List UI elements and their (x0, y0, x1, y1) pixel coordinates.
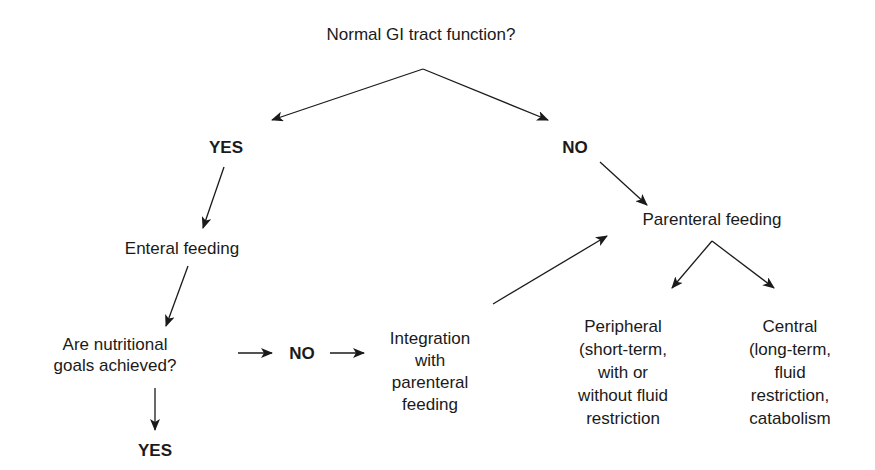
peripheral-line-4: without fluid (548, 384, 698, 407)
peripheral-line-5: restriction (548, 407, 698, 430)
yes-top-label: YES (209, 138, 243, 157)
integration-line-3: parenteral (370, 372, 490, 394)
no-top-label: NO (562, 138, 588, 157)
node-integration: Integration with parenteral feeding (370, 328, 490, 416)
node-root-question: Normal GI tract function? (286, 24, 556, 45)
node-no-mid: NO (277, 343, 327, 364)
no-mid-label: NO (289, 344, 315, 363)
central-line-4: restriction, (725, 384, 855, 407)
arrow-root-to-yes (272, 69, 423, 120)
peripheral-line-1: Peripheral (548, 315, 698, 338)
arrow-yes-to-enteral (203, 167, 224, 228)
central-line-5: catabolism (725, 407, 855, 430)
peripheral-line-2: (short-term, (548, 338, 698, 361)
arrow-integration-to-parenteral (493, 236, 607, 304)
central-line-1: Central (725, 315, 855, 338)
node-yes-bottom: YES (125, 440, 185, 461)
node-yes-top: YES (196, 137, 256, 158)
parenteral-label: Parenteral feeding (643, 210, 782, 229)
integration-line-2: with (370, 350, 490, 372)
node-no-top: NO (550, 137, 600, 158)
node-enteral-feeding: Enteral feeding (102, 238, 262, 259)
enteral-label: Enteral feeding (125, 239, 239, 258)
node-parenteral-feeding: Parenteral feeding (622, 209, 802, 230)
goals-line-2: goals achieved? (30, 355, 200, 376)
root-label: Normal GI tract function? (327, 25, 516, 44)
integration-line-1: Integration (370, 328, 490, 350)
central-line-3: fluid (725, 361, 855, 384)
central-line-2: (long-term, (725, 338, 855, 361)
arrow-enteral-to-goals (166, 266, 188, 326)
integration-line-4: feeding (370, 394, 490, 416)
peripheral-line-3: with or (548, 361, 698, 384)
arrow-root-to-no (423, 69, 548, 120)
node-peripheral: Peripheral (short-term, with or without … (548, 315, 698, 430)
arrow-no-to-parenteral (600, 162, 647, 205)
goals-line-1: Are nutritional (30, 334, 200, 355)
arrow-parenteral-to-peripheral (672, 241, 712, 288)
node-central: Central (long-term, fluid restriction, c… (725, 315, 855, 430)
yes-bottom-label: YES (138, 441, 172, 460)
node-goals-question: Are nutritional goals achieved? (30, 334, 200, 376)
arrow-parenteral-to-central (712, 241, 774, 288)
